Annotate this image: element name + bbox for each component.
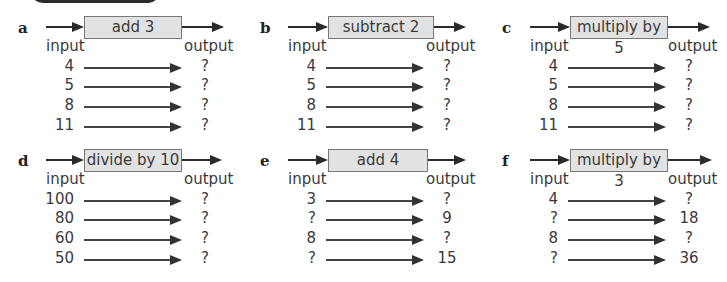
mapping-arrow-icon [84, 259, 180, 261]
mapping-arrow-icon [568, 200, 664, 202]
input-value: 11 [524, 116, 558, 134]
mapping-arrow-icon [326, 86, 422, 88]
exercise-label: c [502, 19, 511, 37]
exercise-label: d [18, 152, 29, 170]
mapping-arrow-icon [84, 86, 180, 88]
output-value: 36 [674, 249, 704, 267]
mapping-arrow-icon [568, 106, 664, 108]
output-header: output [184, 170, 233, 188]
output-value: 15 [432, 249, 462, 267]
output-value: 18 [674, 209, 704, 227]
input-value: 11 [282, 116, 316, 134]
input-value: ? [524, 249, 558, 267]
mapping-arrow-icon [568, 67, 664, 69]
mapping-arrow-icon [84, 67, 180, 69]
mapping-arrow-icon [326, 259, 422, 261]
output-value: ? [674, 57, 704, 75]
mapping-arrow-icon [84, 200, 180, 202]
function-machine-panel-d: d divide by 10 input output 100?80?60?50… [0, 133, 240, 268]
mapping-arrow-icon [84, 239, 180, 241]
mapping-arrow-icon [84, 219, 180, 221]
output-arrow-icon [668, 26, 708, 28]
mapping-arrow-icon [568, 259, 664, 261]
function-machine-panel-b: b subtract 2 input output 4?5?8?11? [242, 0, 482, 135]
input-value: 8 [282, 229, 316, 247]
input-value: ? [282, 249, 316, 267]
output-value: 9 [432, 209, 462, 227]
exercise-label: a [18, 19, 28, 37]
output-value: ? [674, 190, 704, 208]
output-header: output [426, 170, 475, 188]
input-header: input [46, 37, 85, 55]
output-value: ? [190, 57, 220, 75]
mapping-arrow-icon [326, 67, 422, 69]
output-value: ? [674, 116, 704, 134]
input-arrow-icon [530, 159, 568, 161]
function-box: subtract 2 [328, 16, 434, 39]
input-value: ? [524, 209, 558, 227]
input-arrow-icon [46, 159, 82, 161]
output-value: ? [674, 229, 704, 247]
output-header: output [184, 37, 233, 55]
input-value: 8 [524, 96, 558, 114]
output-value: ? [432, 229, 462, 247]
input-value: 60 [40, 229, 74, 247]
exercise-label: f [502, 152, 508, 170]
output-value: ? [432, 96, 462, 114]
function-box: add 3 [84, 16, 182, 39]
output-value: ? [190, 76, 220, 94]
mapping-arrow-icon [568, 86, 664, 88]
input-value: 8 [40, 96, 74, 114]
mapping-arrow-icon [568, 126, 664, 128]
input-arrow-icon [46, 26, 82, 28]
function-box: add 4 [328, 149, 428, 172]
input-value: 8 [282, 96, 316, 114]
mapping-arrow-icon [326, 219, 422, 221]
output-value: ? [190, 116, 220, 134]
function-machine-panel-f: f multiply by 3 input output 4??188??36 [484, 133, 724, 268]
input-value: 50 [40, 249, 74, 267]
mapping-arrow-icon [568, 239, 664, 241]
function-box: divide by 10 [84, 149, 182, 172]
output-value: ? [190, 249, 220, 267]
input-value: 5 [40, 76, 74, 94]
mapping-arrow-icon [84, 106, 180, 108]
output-value: ? [432, 116, 462, 134]
input-value: 5 [282, 76, 316, 94]
input-value: 3 [282, 190, 316, 208]
output-value: ? [190, 96, 220, 114]
input-header: input [46, 170, 85, 188]
input-arrow-icon [288, 159, 326, 161]
input-value: 4 [40, 57, 74, 75]
output-arrow-icon [182, 26, 222, 28]
input-value: 100 [40, 190, 74, 208]
mapping-arrow-icon [326, 126, 422, 128]
mapping-arrow-icon [568, 219, 664, 221]
mapping-arrow-icon [84, 126, 180, 128]
input-value: 5 [524, 76, 558, 94]
exercise-label: e [260, 152, 270, 170]
input-value: ? [282, 209, 316, 227]
output-value: ? [190, 209, 220, 227]
input-value: 4 [282, 57, 316, 75]
input-header: input [530, 170, 569, 188]
exercise-label: b [260, 19, 271, 37]
output-arrow-icon [668, 159, 710, 161]
mapping-arrow-icon [326, 200, 422, 202]
output-arrow-icon [182, 159, 220, 161]
output-arrow-icon [428, 159, 464, 161]
function-box: multiply by 3 [570, 149, 668, 172]
function-machine-panel-c: c multiply by 5 input output 4?5?8?11? [484, 0, 724, 135]
output-value: ? [190, 190, 220, 208]
mapping-arrow-icon [326, 106, 422, 108]
output-value: ? [432, 57, 462, 75]
input-value: 11 [40, 116, 74, 134]
mapping-arrow-icon [326, 239, 422, 241]
output-arrow-icon [434, 26, 464, 28]
output-header: output [668, 170, 717, 188]
output-value: ? [674, 96, 704, 114]
function-box: multiply by 5 [570, 16, 668, 39]
function-machine-panel-e: e add 4 input output 3??98??15 [242, 133, 482, 268]
output-value: ? [190, 229, 220, 247]
output-value: ? [432, 76, 462, 94]
